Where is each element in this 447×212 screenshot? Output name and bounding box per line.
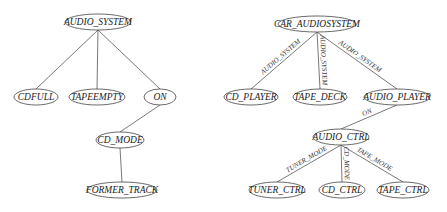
node-tuner_ctrl: TUNER_CTRL — [248, 182, 306, 198]
edge-audio_ctrl-cd_ctrl — [341, 145, 342, 182]
node-tapeempty: TAPEEMPTY — [69, 89, 125, 105]
edge-cd_mode-former_track — [120, 148, 122, 182]
node-label: CDFULL — [18, 92, 54, 102]
edge-audio_system-tapeempty — [97, 30, 98, 89]
node-former_track: FORMER_TRACK — [85, 182, 159, 198]
node-label: TAPEEMPTY — [71, 92, 125, 102]
node-label: AUDIO_SYSTEM — [63, 17, 133, 27]
node-label: TAPE_DECK — [294, 92, 347, 102]
edge-label: CD_MODE — [342, 147, 351, 181]
node-label: CD_CTRL — [322, 185, 363, 195]
node-label: TAPE_CTRL — [378, 185, 427, 195]
node-cdfull: CDFULL — [14, 89, 58, 105]
edge-car_audiosystem-cd_player — [251, 32, 317, 89]
node-label: FORMER_TRACK — [85, 185, 159, 195]
edge-label: TUNER_MODE — [285, 144, 329, 174]
node-label: CD_PLAYER — [225, 92, 276, 102]
edge-on-cd_mode — [120, 105, 160, 132]
node-label: AUDIO_CTRL — [311, 132, 369, 142]
edge-audio_system-on — [98, 30, 160, 89]
edge-audio_ctrl-tuner_ctrl — [277, 145, 341, 182]
edge-label: TAPE_MODE — [355, 146, 394, 174]
node-label: AUDIO_PLAYER — [362, 92, 431, 102]
left-tree: AUDIO_SYSTEMCDFULLTAPEEMPTYONCD_MODEFORM… — [14, 14, 176, 198]
tree-diagram: AUDIO_SYSTEMCDFULLTAPEEMPTYONCD_MODEFORM… — [0, 0, 447, 212]
edge-label: AUDIO_SYSTEM — [336, 38, 383, 75]
right-tree: AUDIO_SYSTEMAUDIO_SYSTEMAUDIO_SYSTEMONTU… — [224, 16, 431, 198]
node-cd_ctrl: CD_CTRL — [319, 182, 365, 198]
node-label: CAR_AUDIOSYSTEM — [274, 19, 361, 29]
node-label: TUNER_CTRL — [248, 185, 306, 195]
edge-label: AUDIO_SYSTEM — [258, 37, 303, 77]
node-tape_deck: TAPE_DECK — [293, 89, 347, 105]
node-label: ON — [153, 92, 167, 102]
node-car_audiosystem: CAR_AUDIOSYSTEM — [274, 16, 361, 32]
node-audio_ctrl: AUDIO_CTRL — [311, 129, 369, 145]
node-cd_player: CD_PLAYER — [224, 89, 278, 105]
node-audio_player: AUDIO_PLAYER — [362, 89, 431, 105]
node-label: CD_MODE — [97, 135, 143, 145]
node-audio_system: AUDIO_SYSTEM — [63, 14, 133, 30]
node-tape_ctrl: TAPE_CTRL — [377, 182, 429, 198]
edge-audio_system-cdfull — [36, 30, 98, 89]
node-on: ON — [144, 89, 176, 105]
node-cd_mode: CD_MODE — [96, 132, 144, 148]
